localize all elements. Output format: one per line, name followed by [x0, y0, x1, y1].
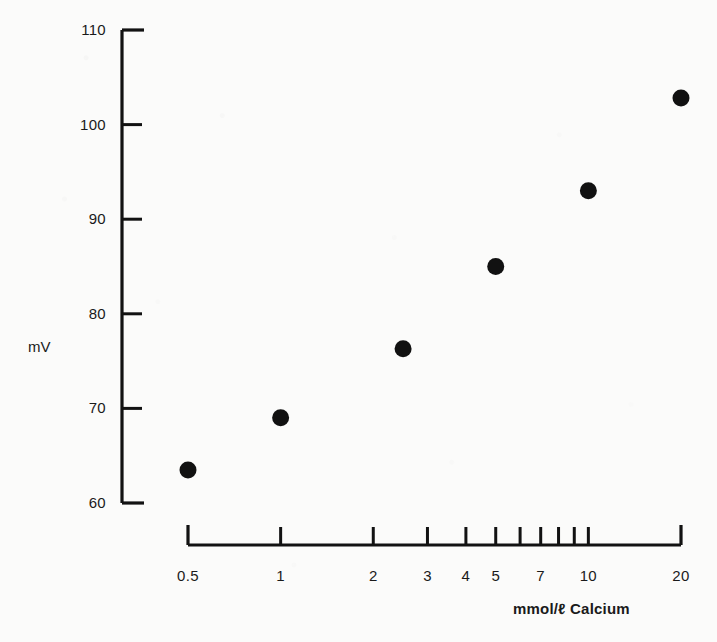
y-axis — [122, 30, 144, 503]
x-axis — [188, 525, 681, 545]
x-axis-tick-label: 20 — [656, 567, 706, 584]
data-point-marker — [673, 90, 690, 107]
data-point-marker — [272, 409, 289, 426]
y-axis-title: mV — [28, 338, 51, 355]
data-point-marker — [487, 258, 504, 275]
x-axis-tick-label: 0.5 — [163, 567, 213, 584]
x-axis-tick-label: 1 — [256, 567, 306, 584]
data-point-marker — [180, 461, 197, 478]
data-point-marker — [580, 182, 597, 199]
y-axis-tick-label: 90 — [44, 210, 106, 227]
x-axis-tick-label: 7 — [516, 567, 566, 584]
data-point-marker — [395, 340, 412, 357]
y-axis-tick-label: 100 — [44, 116, 106, 133]
y-axis-tick-label: 60 — [44, 494, 106, 511]
y-axis-tick-label: 80 — [44, 305, 106, 322]
chart-figure: 60708090100110 0.51234571020 mV mmol/ℓ C… — [0, 0, 717, 642]
x-axis-tick-label: 5 — [471, 567, 521, 584]
x-axis-tick-label: 10 — [563, 567, 613, 584]
y-axis-tick-label: 70 — [44, 399, 106, 416]
x-axis-tick-label: 2 — [348, 567, 398, 584]
x-axis-title: mmol/ℓ Calcium — [513, 600, 630, 617]
plot-area — [0, 0, 717, 642]
data-point-series — [180, 90, 690, 479]
y-axis-tick-label: 110 — [44, 21, 106, 38]
